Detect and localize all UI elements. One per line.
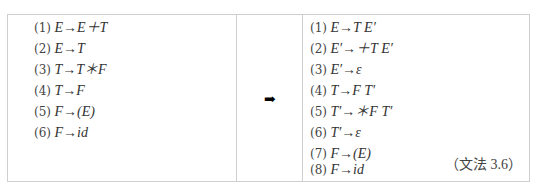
rule-text: T→F: [55, 83, 85, 98]
grammar-rule: (2) E′→＋T E′: [310, 38, 393, 60]
grammar-rule: (8) F→id: [310, 159, 364, 181]
grammar-rule: (3) E′→ε: [310, 59, 362, 81]
grammar-rule: (6) T′→ε: [310, 122, 361, 144]
rule-text: T→F T′: [331, 83, 376, 98]
rule-number: (6): [310, 126, 327, 140]
right-arrow-icon: ➡: [264, 91, 276, 108]
rule-text: E→T E′: [331, 20, 376, 35]
grammar-rule: (3) T→T＊F: [34, 59, 107, 81]
grammar-rule: (5) F→(E): [34, 101, 95, 123]
grammar-rule: (4) T→F T′: [310, 80, 375, 102]
rule-text: T→T＊F: [55, 62, 107, 77]
rule-text: E→E＋T: [55, 20, 108, 35]
rule-number: (4): [310, 84, 327, 98]
rule-number: (5): [34, 105, 51, 119]
rule-text: E→T: [55, 41, 85, 56]
rule-number: (4): [34, 84, 51, 98]
rule-number: (2): [310, 42, 327, 56]
rule-number: (5): [310, 105, 327, 119]
grammar-rule: (2) E→T: [34, 38, 85, 60]
rule-number: (3): [34, 63, 51, 77]
rule-text: F→id: [55, 125, 88, 140]
grammar-rule: (6) F→id: [34, 122, 88, 144]
rule-text: T′→＊F T′: [331, 104, 393, 119]
rule-text: E′→ε: [331, 62, 362, 77]
rule-text: E′→＋T E′: [331, 41, 393, 56]
grammar-rule: (4) T→F: [34, 80, 85, 102]
rule-number: (8): [310, 163, 327, 177]
grammar-rule: (1) E→T E′: [310, 17, 376, 39]
rule-text: F→id: [331, 162, 364, 177]
rule-number: (2): [34, 42, 51, 56]
rule-text: F→(E): [55, 104, 95, 119]
rule-number: (1): [34, 21, 51, 35]
grammar-label: （文法 3.6）: [445, 154, 522, 176]
grammar-rule: (5) T′→＊F T′: [310, 101, 392, 123]
rule-number: (1): [310, 21, 327, 35]
rule-number: (6): [34, 126, 51, 140]
rule-text: T′→ε: [331, 125, 361, 140]
grammar-rule: (1) E→E＋T: [34, 17, 107, 39]
rule-number: (3): [310, 63, 327, 77]
